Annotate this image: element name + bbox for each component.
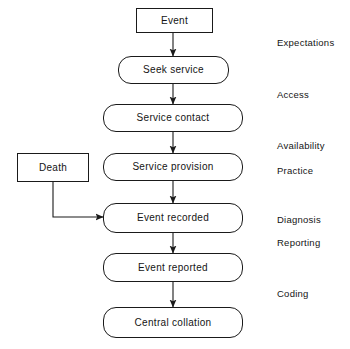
- node-service-provision-label: Service provision: [132, 162, 213, 172]
- stage-label-access: Access: [277, 90, 309, 100]
- connector-death-to-event-recorded: [53, 182, 103, 217]
- node-event-label: Event: [161, 16, 188, 26]
- stage-label-practice: Practice: [277, 166, 313, 176]
- node-event-reported: Event reported: [103, 253, 243, 282]
- node-central-collation-label: Central collation: [135, 318, 212, 328]
- node-event-recorded: Event recorded: [103, 203, 243, 233]
- node-event-reported-label: Event reported: [138, 263, 208, 273]
- node-central-collation: Central collation: [103, 307, 243, 338]
- node-seek-service-label: Seek service: [143, 65, 204, 75]
- stage-label-expectations: Expectations: [277, 38, 334, 48]
- node-death: Death: [17, 153, 89, 182]
- node-service-contact: Service contact: [103, 104, 243, 132]
- stage-label-coding: Coding: [277, 289, 309, 299]
- stage-label-diagnosis: Diagnosis: [277, 215, 321, 225]
- node-event: Event: [136, 8, 213, 33]
- stage-label-availability: Availability: [277, 141, 325, 151]
- flowchart-canvas: Event Seek service Service contact Servi…: [0, 0, 350, 349]
- stage-label-reporting: Reporting: [277, 238, 320, 248]
- node-death-label: Death: [39, 163, 67, 173]
- node-seek-service: Seek service: [118, 56, 229, 84]
- node-service-provision: Service provision: [103, 153, 243, 181]
- node-event-recorded-label: Event recorded: [137, 213, 209, 223]
- node-service-contact-label: Service contact: [137, 113, 210, 123]
